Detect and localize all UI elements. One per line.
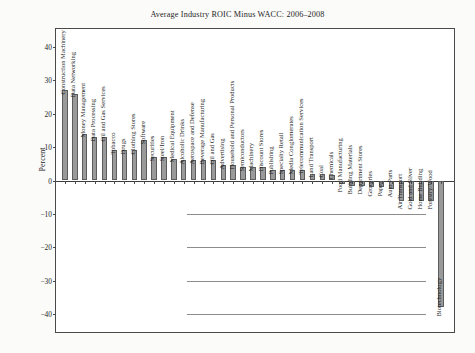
- y-tick-label: −40: [34, 310, 52, 319]
- category-label: Home Building: [417, 169, 424, 210]
- category-label: Biotechnology: [437, 278, 444, 317]
- x-tick-mark: [154, 181, 155, 184]
- category-label: Building Materials: [348, 145, 355, 195]
- category-label: Machinery: [249, 143, 256, 172]
- category-label: Construction Machinery: [61, 30, 68, 94]
- y-tick-label: 40: [34, 43, 52, 52]
- category-label: Securities: [150, 135, 157, 161]
- y-tick-label: −30: [34, 276, 52, 285]
- category-label: Data Processing: [90, 99, 97, 142]
- category-label: Semiconductors: [239, 129, 246, 172]
- category-label: Chemicals: [328, 152, 335, 180]
- x-tick-mark: [95, 181, 96, 184]
- bar: [102, 137, 107, 180]
- x-tick-mark: [441, 181, 442, 184]
- x-tick-mark: [283, 181, 284, 184]
- category-label: Gold and Silver: [407, 168, 414, 210]
- x-tick-mark: [223, 181, 224, 184]
- category-label: Drugs: [120, 138, 127, 154]
- gridline: [187, 281, 426, 282]
- zero-baseline: [56, 181, 454, 182]
- bar: [132, 150, 137, 180]
- category-label: Alcoholic Drinks: [180, 119, 187, 165]
- gridline: [187, 214, 426, 215]
- chart-title: Average Industry ROIC Minus WACC: 2006–2…: [0, 10, 475, 19]
- category-label: Publishing: [269, 146, 276, 174]
- category-label: Tobacco: [110, 132, 117, 154]
- plot-area: 403020100−10−20−30−40 Construction Machi…: [55, 28, 455, 333]
- y-tick-mark: [53, 247, 56, 248]
- category-label: Department Stores: [358, 145, 365, 194]
- gridline: [187, 247, 426, 248]
- bar: [141, 140, 146, 180]
- x-tick-mark: [85, 181, 86, 184]
- x-tick-mark: [134, 181, 135, 184]
- x-tick-mark: [312, 181, 313, 184]
- category-label: Money Management: [81, 83, 88, 138]
- category-label: Beverage Manufacturing: [199, 99, 206, 165]
- category-label: Specialty Retail: [278, 133, 285, 175]
- category-label: Coal: [318, 165, 325, 177]
- x-tick-mark: [322, 181, 323, 184]
- bar: [92, 137, 97, 180]
- x-tick-mark: [293, 181, 294, 184]
- bar: [122, 150, 127, 180]
- bar: [112, 150, 117, 180]
- category-label: Paper: [377, 181, 384, 196]
- category-label: Oil and Gas Services: [100, 86, 107, 141]
- y-tick-mark: [53, 80, 56, 81]
- category-label: Food Manufacturing: [338, 139, 345, 193]
- x-tick-mark: [263, 181, 264, 184]
- category-label: Air Transport: [397, 174, 404, 210]
- x-tick-mark: [243, 181, 244, 184]
- category-label: Media Conglomerates: [288, 116, 295, 174]
- category-label: Steel/Iron: [160, 135, 167, 161]
- y-tick-label: −20: [34, 243, 52, 252]
- x-tick-mark: [144, 181, 145, 184]
- x-tick-mark: [184, 181, 185, 184]
- category-label: Auto Parts: [387, 170, 394, 198]
- category-label: Software: [140, 121, 147, 145]
- category-label: Clothing Stores: [130, 113, 137, 154]
- x-tick-mark: [273, 181, 274, 184]
- x-tick-mark: [164, 181, 165, 184]
- y-tick-label: −10: [34, 209, 52, 218]
- y-axis-title: Percent: [38, 130, 47, 190]
- y-tick-mark: [53, 114, 56, 115]
- x-tick-mark: [194, 181, 195, 184]
- category-label: Data Networking: [71, 52, 78, 98]
- category-label: Land Transport: [308, 137, 315, 177]
- x-tick-mark: [174, 181, 175, 184]
- category-label: Oil and Gas: [209, 133, 216, 165]
- x-tick-mark: [114, 181, 115, 184]
- x-tick-mark: [332, 181, 333, 184]
- bar: [82, 134, 87, 181]
- category-label: Forestry/Wood: [427, 170, 434, 209]
- category-label: Aerospace and Defense: [189, 102, 196, 164]
- x-tick-mark: [233, 181, 234, 184]
- category-label: Household and Personal Products: [229, 81, 236, 170]
- y-tick-mark: [53, 47, 56, 48]
- x-tick-mark: [124, 181, 125, 184]
- bar: [72, 94, 77, 181]
- y-tick-mark: [53, 147, 56, 148]
- x-tick-mark: [204, 181, 205, 184]
- y-tick-label: 20: [34, 109, 52, 118]
- category-label: Discount Stores: [259, 129, 266, 171]
- chart-container: Average Industry ROIC Minus WACC: 2006–2…: [0, 0, 475, 353]
- x-tick-mark: [65, 181, 66, 184]
- category-label: Medical Equipment: [170, 111, 177, 163]
- x-tick-mark: [105, 181, 106, 184]
- y-tick-mark: [53, 281, 56, 282]
- bar: [62, 90, 67, 180]
- y-tick-mark: [53, 214, 56, 215]
- category-label: Advertising: [219, 138, 226, 169]
- x-tick-mark: [302, 181, 303, 184]
- x-tick-mark: [213, 181, 214, 184]
- y-tick-label: 30: [34, 76, 52, 85]
- category-label: Telecommunication Services: [298, 98, 305, 174]
- category-label: Groceries: [368, 171, 375, 197]
- y-tick-mark: [53, 314, 56, 315]
- x-tick-mark: [75, 181, 76, 184]
- x-tick-mark: [253, 181, 254, 184]
